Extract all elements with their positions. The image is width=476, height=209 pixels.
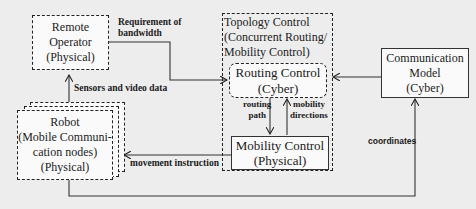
communication-model-label-3: (Cyber) (406, 81, 443, 96)
routing-path-edge-label: routing path (243, 99, 271, 121)
routing-control-node: Routing Control (Cyber) (229, 63, 327, 98)
bandwidth-label-2: bandwidth (118, 28, 181, 39)
topology-control-label-3: Mobility Control) (224, 45, 327, 60)
coordinates-edge-label: coordinates (368, 136, 416, 147)
edge-bandwidth (108, 42, 227, 80)
topology-control-label-1: Topology Control (224, 15, 327, 30)
communication-model-label-1: Communication (386, 51, 463, 66)
robot-node: Robot (Mobile Communi- cation nodes) (Ph… (17, 110, 113, 180)
remote-operator-node: Remote Operator (Physical) (32, 15, 109, 70)
mobility-control-label-2: (Physical) (254, 153, 307, 168)
bandwidth-edge-label: Requirement of bandwidth (118, 17, 181, 39)
movement-edge-label: movement instruction (130, 158, 219, 169)
routing-control-label-2: (Cyber) (258, 81, 298, 97)
mobility-directions-label-2: directions (290, 110, 328, 121)
robot-label-4: (Physical) (41, 160, 90, 175)
remote-operator-label-1: Remote (52, 20, 89, 35)
topology-control-label-2: (Concurrent Routing/ (224, 30, 327, 45)
topology-control-title: Topology Control (Concurrent Routing/ Mo… (224, 15, 327, 60)
mobility-control-node: Mobility Control (Physical) (231, 136, 329, 170)
routing-control-label-1: Routing Control (236, 65, 321, 81)
robot-label-1: Robot (50, 115, 79, 130)
routing-path-label-1: routing (243, 99, 271, 110)
mobility-directions-edge-label: mobility directions (290, 99, 328, 121)
sensors-edge-label: Sensors and video data (74, 83, 167, 94)
robot-label-2: (Mobile Communi- (18, 130, 112, 145)
remote-operator-label-3: (Physical) (46, 50, 95, 65)
routing-path-label-2: path (243, 110, 271, 121)
robot-label-3: cation nodes) (33, 145, 97, 160)
bandwidth-label-1: Requirement of (118, 17, 181, 28)
remote-operator-label-2: Operator (49, 35, 92, 50)
mobility-control-label-1: Mobility Control (236, 138, 324, 153)
mobility-directions-label-1: mobility (290, 99, 328, 110)
communication-model-node: Communication Model (Cyber) (381, 48, 469, 98)
communication-model-label-2: Model (409, 66, 440, 81)
